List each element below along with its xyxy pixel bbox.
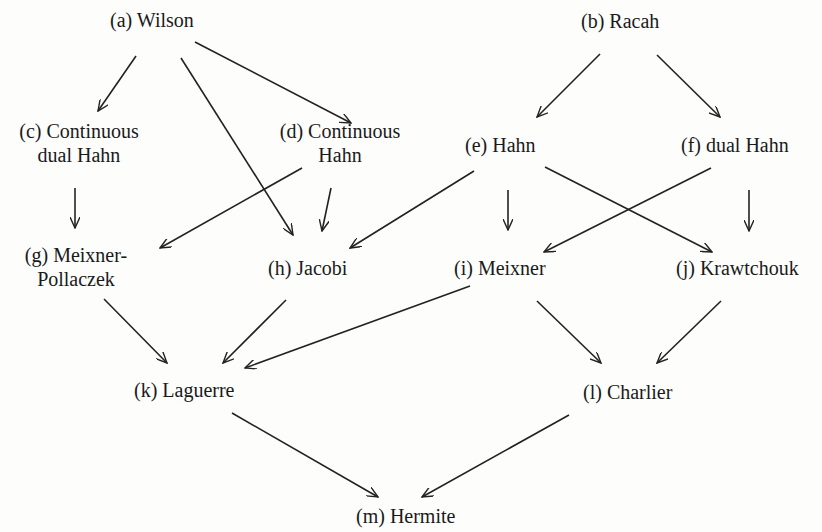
node-label: (k) Laguerre bbox=[134, 379, 235, 401]
edge-i-l bbox=[537, 301, 601, 363]
edge-h-k bbox=[223, 300, 286, 363]
node-continuous-dual-hahn: (c) Continuous dual Hahn bbox=[4, 119, 154, 167]
edge-a-c bbox=[98, 56, 136, 111]
node-wilson: (a) Wilson bbox=[110, 8, 194, 32]
node-meixner: (i) Meixner bbox=[454, 256, 546, 280]
node-label-line2: dual Hahn bbox=[4, 143, 154, 167]
node-label: (a) Wilson bbox=[110, 9, 194, 31]
node-jacobi: (h) Jacobi bbox=[268, 256, 347, 280]
node-label: (h) Jacobi bbox=[268, 257, 347, 279]
node-laguerre: (k) Laguerre bbox=[134, 378, 235, 402]
node-label: (m) Hermite bbox=[356, 505, 455, 527]
node-label-line1: (g) Meixner- bbox=[6, 243, 146, 267]
node-hahn: (e) Hahn bbox=[465, 133, 536, 157]
node-label-line2: Hahn bbox=[265, 143, 415, 167]
edge-d-h bbox=[322, 188, 331, 231]
edge-e-h bbox=[350, 171, 474, 248]
edge-j-l bbox=[657, 301, 721, 363]
node-dual-hahn: (f) dual Hahn bbox=[681, 133, 789, 157]
node-label: (f) dual Hahn bbox=[681, 134, 789, 156]
node-label-line2: Pollaczek bbox=[6, 267, 146, 291]
node-hermite: (m) Hermite bbox=[356, 504, 455, 528]
askey-scheme-diagram: (a) Wilson (b) Racah (c) Continuous dual… bbox=[0, 0, 822, 532]
edge-l-m bbox=[422, 415, 569, 497]
edge-b-f bbox=[657, 55, 720, 117]
edge-d-g bbox=[160, 168, 302, 248]
node-continuous-hahn: (d) Continuous Hahn bbox=[265, 119, 415, 167]
edge-k-m bbox=[232, 413, 378, 497]
node-label: (b) Racah bbox=[581, 10, 659, 32]
node-charlier: (l) Charlier bbox=[583, 380, 672, 404]
node-racah: (b) Racah bbox=[581, 9, 659, 33]
node-label: (j) Krawtchouk bbox=[676, 257, 799, 279]
node-label-line1: (c) Continuous bbox=[4, 119, 154, 143]
node-label: (e) Hahn bbox=[465, 134, 536, 156]
edge-a-d bbox=[195, 42, 351, 123]
node-krawtchouk: (j) Krawtchouk bbox=[676, 256, 799, 280]
edge-g-k bbox=[104, 299, 167, 363]
node-meixner-pollaczek: (g) Meixner- Pollaczek bbox=[6, 243, 146, 291]
edge-b-e bbox=[537, 54, 600, 117]
edge-i-k bbox=[245, 286, 470, 368]
node-label: (l) Charlier bbox=[583, 381, 672, 403]
node-label: (i) Meixner bbox=[454, 257, 546, 279]
node-label-line1: (d) Continuous bbox=[265, 119, 415, 143]
